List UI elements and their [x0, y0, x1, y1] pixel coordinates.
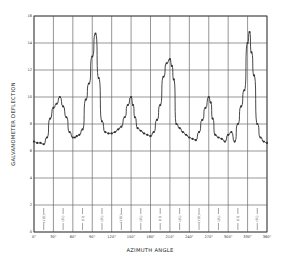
y-tick-label: 4: [30, 176, 33, 180]
y-tick-label: 16: [27, 14, 32, 18]
data-point: [173, 78, 175, 80]
data-point: [74, 136, 76, 138]
data-point: [46, 136, 48, 138]
data-point: [81, 128, 83, 130]
data-point: [91, 55, 93, 57]
data-point: [36, 142, 38, 144]
data-point: [107, 132, 109, 134]
data-point: [246, 42, 248, 44]
y-tick-label: 2: [30, 203, 32, 207]
x-tick-label: 150°: [127, 235, 136, 239]
data-point: [134, 116, 136, 118]
annotation-label: (IV): [61, 215, 65, 221]
annotation-label: (VIII): [119, 214, 123, 223]
data-point: [76, 135, 78, 137]
x-tick-label: 240°: [185, 235, 194, 239]
data-point: [43, 143, 45, 145]
y-tick-label: 14: [27, 41, 32, 45]
data-point: [146, 134, 148, 136]
annotation-label: (II): [158, 216, 162, 221]
data-point: [88, 82, 90, 84]
data-point: [169, 58, 171, 60]
data-point: [224, 140, 226, 142]
annotation-label: (II): [81, 216, 85, 221]
data-point: [195, 139, 197, 141]
annotation-label: (II): [236, 216, 240, 221]
data-point: [59, 96, 61, 98]
data-point: [120, 126, 122, 128]
data-point: [111, 132, 113, 134]
data-point: [212, 118, 214, 120]
data-point: [153, 131, 155, 133]
data-point: [68, 131, 70, 133]
x-tick-label: 90°: [89, 235, 96, 239]
annotation-label: (IV): [217, 215, 221, 221]
annotation-label: (VIII): [42, 214, 46, 223]
x-tick-label: 0°: [32, 235, 36, 239]
x-tick-label: 330°: [243, 235, 252, 239]
data-point: [140, 130, 142, 132]
data-point: [175, 123, 177, 125]
data-point: [52, 107, 54, 109]
data-point: [237, 123, 239, 125]
data-point: [39, 142, 41, 144]
x-tick-labels: 0°30°60°90°120°150°180°210°240°270°300°3…: [32, 235, 272, 239]
x-tick-label: 180°: [146, 235, 155, 239]
x-tick-label: 360°: [263, 235, 272, 239]
data-point: [240, 105, 242, 107]
data-point: [132, 104, 134, 106]
data-point: [250, 51, 252, 53]
data-point: [114, 131, 116, 133]
annotation-label: (IV): [139, 215, 143, 221]
data-point: [78, 134, 80, 136]
data-point: [171, 65, 173, 67]
x-tick-label: 30°: [50, 235, 57, 239]
y-tick-label: 6: [30, 149, 33, 153]
grid: [34, 16, 267, 232]
data-point: [185, 134, 187, 136]
data-point: [65, 116, 67, 118]
data-point: [136, 127, 138, 129]
x-tick-label: 300°: [224, 235, 233, 239]
data-point: [214, 134, 216, 136]
x-tick-label: 120°: [107, 235, 116, 239]
data-point: [256, 123, 258, 125]
x-tick-label: 270°: [204, 235, 213, 239]
data-point: [162, 76, 164, 78]
data-point: [104, 131, 106, 133]
data-point: [127, 104, 129, 106]
data-point: [210, 101, 212, 103]
annotation-label: (IV): [255, 215, 259, 221]
x-axis-label: AZIMUTH ANGLE: [126, 247, 173, 253]
data-point: [204, 107, 206, 109]
data-point: [143, 132, 145, 134]
data-point: [221, 138, 223, 140]
data-point: [130, 96, 132, 98]
data-point: [49, 118, 51, 120]
data-point: [230, 131, 232, 133]
data-point: [208, 96, 210, 98]
y-tick-label: 0: [30, 230, 33, 234]
data-point: [72, 136, 74, 138]
data-point: [156, 119, 158, 121]
data-point: [253, 74, 255, 76]
y-tick-label: 12: [27, 68, 32, 72]
data-point: [101, 120, 103, 122]
data-point: [248, 31, 250, 33]
data-point: [227, 134, 229, 136]
x-tick-label: 210°: [166, 235, 175, 239]
data-point: [124, 116, 126, 118]
annotation-label: (VIII): [197, 214, 201, 223]
data-point: [217, 136, 219, 138]
data-point: [259, 136, 261, 138]
data-point: [191, 138, 193, 140]
data-point: [234, 140, 236, 142]
data-point: [243, 89, 245, 91]
annotation-label: (IV): [178, 215, 182, 221]
y-tick-label: 10: [27, 95, 32, 99]
x-tick-label: 60°: [70, 235, 77, 239]
data-point: [179, 127, 181, 129]
data-point: [201, 119, 203, 121]
y-axis-label: GALVANOMETER DEFLECTION: [10, 82, 16, 166]
data-point: [266, 142, 268, 144]
